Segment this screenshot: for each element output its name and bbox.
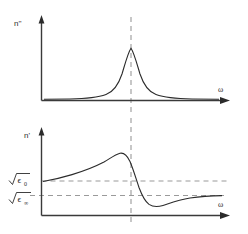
figure-canvas: n'' ω n' ϵ 0	[0, 0, 248, 234]
eps-inf-symbol: ϵ	[18, 194, 22, 204]
upper-y-axis-arrowhead	[39, 15, 45, 24]
lower-dispersion-curve	[43, 153, 222, 206]
lower-x-axis-label: ω	[218, 200, 223, 209]
upper-y-axis-label: n''	[14, 19, 22, 28]
upper-x-axis-arrowhead	[220, 97, 230, 104]
eps-zero-subscript: 0	[24, 181, 27, 187]
eps-inf-subscript: ∞	[24, 200, 28, 206]
eps-zero-label: ϵ 0	[9, 174, 30, 187]
upper-x-axis-label: ω	[218, 85, 223, 94]
lower-y-axis-label: n'	[24, 131, 30, 140]
eps-zero-symbol: ϵ	[18, 175, 22, 185]
eps-inf-label: ϵ ∞	[9, 193, 31, 206]
lower-y-axis-arrowhead	[39, 127, 45, 136]
lower-x-axis-arrowhead	[220, 212, 230, 219]
upper-panel: n'' ω	[14, 15, 230, 116]
dispersion-figure: n'' ω n' ϵ 0	[0, 0, 248, 234]
lower-panel: n' ϵ 0 ϵ ∞ ω	[9, 118, 230, 222]
